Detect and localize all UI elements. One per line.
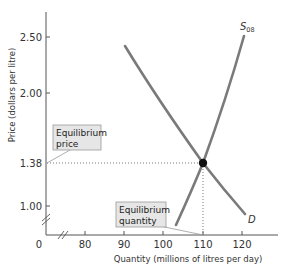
supply-label: S08 — [240, 21, 255, 34]
eq-quantity-annotation-line2: quantity — [119, 216, 157, 226]
eq-price-annotation-line1: Equilibrium — [56, 128, 107, 138]
y-tick-label-1.00: 1.00 — [20, 201, 42, 212]
supply-curve — [176, 36, 244, 225]
x-tick-label-80: 80 — [79, 239, 92, 250]
eq-price-annotation-line2: price — [56, 139, 79, 149]
equilibrium-point — [199, 159, 207, 167]
eq-quantity-annotation-line1: Equilibrium — [119, 205, 170, 215]
x-axis-title: Quantity (millions of litres per day) — [114, 254, 263, 264]
x-ticks — [85, 231, 242, 235]
eq-price-leader — [47, 150, 70, 163]
x-tick-label-0: 0 — [36, 239, 42, 250]
y-tick-label-1.38: 1.38 — [20, 158, 42, 169]
y-tick-label-2.00: 2.00 — [20, 88, 42, 99]
y-ticks — [46, 37, 50, 206]
x-tick-label-120: 120 — [232, 239, 251, 250]
x-tick-label-100: 100 — [153, 239, 172, 250]
supply-demand-chart: 2.50 2.00 1.38 1.00 0 80 90 100 110 120 … — [0, 0, 286, 269]
x-tick-label-110: 110 — [193, 239, 212, 250]
supply-label-sub: 08 — [246, 26, 254, 34]
x-tick-label-90: 90 — [118, 239, 131, 250]
y-axis-title: Price (dollars per litre) — [7, 48, 17, 143]
y-tick-label-2.50: 2.50 — [20, 32, 42, 43]
demand-curve — [125, 46, 245, 214]
demand-label: D — [248, 214, 256, 225]
